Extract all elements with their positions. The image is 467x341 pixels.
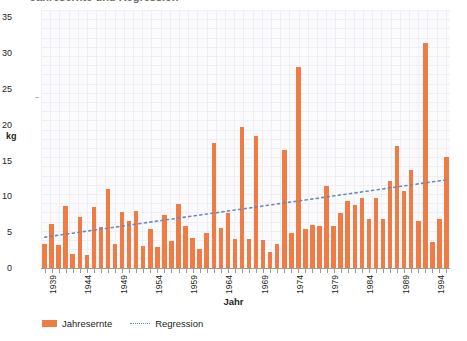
x-tick-mark-1971	[270, 269, 271, 273]
x-tick-mark-1950	[122, 269, 123, 273]
x-tick-mark-1954	[150, 269, 151, 273]
x-tick-mark-1945	[87, 269, 88, 273]
x-tick-mark-1965	[228, 269, 229, 273]
x-tick-mark-1979	[327, 269, 328, 273]
x-tick-mark-1949	[115, 269, 116, 273]
x-tick-mark-1939	[45, 269, 46, 273]
x-tick-mark-1995	[439, 269, 440, 273]
x-axis-line	[41, 268, 450, 269]
x-tick-mark-1978	[320, 269, 321, 273]
x-tick-mark-1960	[193, 269, 194, 273]
x-tick-mark-1981	[341, 269, 342, 273]
x-tick-mark-1963	[214, 269, 215, 273]
x-tick-label-1994: 1994	[436, 275, 446, 294]
y-axis-label: kg	[6, 131, 17, 141]
x-tick-mark-1988	[390, 269, 391, 273]
x-tick-mark-1969	[256, 269, 257, 273]
x-tick-mark-1942	[66, 269, 67, 273]
x-tick-label-1944: 1944	[83, 275, 93, 294]
y-tick-label: 20	[2, 120, 12, 130]
y-tick-label: 5	[7, 227, 12, 237]
x-tick-mark-1968	[249, 269, 250, 273]
legend-label-jahresernte: Jahresernte	[62, 318, 112, 329]
x-tick-label-1959: 1959	[189, 275, 199, 294]
chart-legend: Jahresernte Regression	[42, 318, 203, 329]
x-tick-label-1969: 1969	[260, 275, 270, 294]
x-tick-mark-1972	[277, 269, 278, 273]
x-tick-mark-1985	[369, 269, 370, 273]
x-tick-mark-1996	[446, 269, 447, 273]
x-tick-mark-1976	[305, 269, 306, 273]
x-tick-label-1979: 1979	[330, 275, 340, 294]
y-tick-label: 35	[2, 12, 12, 22]
regression-line	[41, 10, 450, 268]
x-tick-mark-1967	[242, 269, 243, 273]
x-tick-mark-1970	[263, 269, 264, 273]
x-tick-mark-1974	[291, 269, 292, 273]
x-tick-mark-1964	[221, 269, 222, 273]
x-tick-mark-1987	[383, 269, 384, 273]
y-tick-label: 0	[7, 263, 12, 273]
x-tick-mark-1947	[101, 269, 102, 273]
x-tick-label-1954: 1954	[154, 275, 164, 294]
x-tick-mark-1962	[207, 269, 208, 273]
x-tick-mark-1977	[312, 269, 313, 273]
legend-item-jahresernte: Jahresernte	[42, 318, 112, 329]
x-tick-mark-1984	[362, 269, 363, 273]
x-tick-mark-1980	[334, 269, 335, 273]
x-tick-mark-1994	[432, 269, 433, 273]
y-tick-label: 25	[2, 84, 12, 94]
x-tick-label-1989: 1989	[401, 275, 411, 294]
legend-line-swatch-icon	[130, 323, 150, 324]
x-tick-mark-1943	[73, 269, 74, 273]
x-tick-mark-1961	[200, 269, 201, 273]
x-tick-mark-1992	[418, 269, 419, 273]
x-tick-mark-1966	[235, 269, 236, 273]
y-axis-minor-tick	[35, 97, 39, 98]
x-tick-mark-1982	[348, 269, 349, 273]
x-tick-mark-1955	[157, 269, 158, 273]
y-tick-label: 15	[2, 156, 12, 166]
x-tick-mark-1940	[52, 269, 53, 273]
legend-item-regression: Regression	[130, 318, 203, 329]
x-tick-label-1974: 1974	[295, 275, 305, 294]
x-tick-mark-1991	[411, 269, 412, 273]
x-tick-mark-1986	[376, 269, 377, 273]
x-tick-mark-1953	[143, 269, 144, 273]
x-tick-label-1949: 1949	[119, 275, 129, 294]
x-tick-mark-1946	[94, 269, 95, 273]
x-tick-mark-1959	[186, 269, 187, 273]
x-tick-mark-1948	[108, 269, 109, 273]
x-tick-mark-1975	[298, 269, 299, 273]
x-axis-label: Jahr	[0, 296, 467, 307]
y-tick-label: 10	[2, 191, 12, 201]
x-tick-label-1964: 1964	[224, 275, 234, 294]
x-tick-mark-1989	[397, 269, 398, 273]
x-tick-mark-1957	[171, 269, 172, 273]
x-tick-mark-1956	[164, 269, 165, 273]
x-tick-mark-1973	[284, 269, 285, 273]
x-tick-mark-1951	[129, 269, 130, 273]
x-tick-mark-1983	[355, 269, 356, 273]
x-tick-label-1984: 1984	[365, 275, 375, 294]
x-tick-mark-1990	[404, 269, 405, 273]
x-tick-mark-1941	[59, 269, 60, 273]
legend-label-regression: Regression	[155, 318, 203, 329]
x-tick-mark-1958	[179, 269, 180, 273]
plot-area	[41, 10, 450, 268]
x-tick-label-1939: 1939	[48, 275, 58, 294]
legend-bar-swatch-icon	[42, 320, 57, 327]
x-tick-mark-1993	[425, 269, 426, 273]
x-tick-mark-1952	[136, 269, 137, 273]
x-tick-mark-1944	[80, 269, 81, 273]
y-tick-label: 30	[2, 48, 12, 58]
chart-figure: 05101520253035 kg 1939194419491954195919…	[0, 0, 467, 341]
